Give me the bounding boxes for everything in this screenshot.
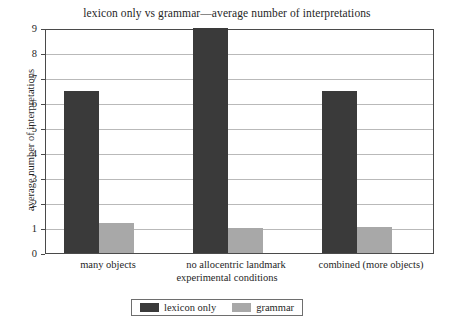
bar-many-objects-lexicon-only xyxy=(64,91,99,254)
y-tick-label: 1 xyxy=(9,224,37,234)
bar-no-allocentric-landmark-lexicon-only xyxy=(193,28,228,253)
y-tick-label: 7 xyxy=(9,74,37,84)
y-tick-label: 0 xyxy=(9,249,37,259)
legend-swatch-icon xyxy=(140,303,159,312)
legend-label: grammar xyxy=(256,302,294,313)
y-tick-label: 2 xyxy=(9,199,37,209)
x-axis-title: experimental conditions xyxy=(0,271,454,284)
bar-no-allocentric-landmark-grammar xyxy=(228,228,263,253)
y-tick-label: 5 xyxy=(9,124,37,134)
gridline xyxy=(46,154,433,155)
y-tick-label: 3 xyxy=(9,174,37,184)
y-tick-label: 4 xyxy=(9,149,37,159)
legend-entry-lexicon-only: lexicon only xyxy=(140,302,216,313)
gridline xyxy=(46,179,433,180)
bar-chart-figure: lexicon only vs grammar—average number o… xyxy=(0,0,454,326)
x-category-label-combined-more-objects: combined (more objects) xyxy=(296,258,446,271)
legend-swatch-icon xyxy=(232,303,251,312)
gridline xyxy=(46,79,433,80)
gridline xyxy=(46,104,433,105)
y-tick-mark xyxy=(41,254,45,255)
x-category-label-many-objects: many objects xyxy=(38,258,178,271)
bar-many-objects-grammar xyxy=(99,223,134,253)
bar-combined-more-objects-lexicon-only xyxy=(322,91,357,254)
gridline xyxy=(46,204,433,205)
chart-title: lexicon only vs grammar—average number o… xyxy=(0,6,454,20)
chart-legend: lexicon only grammar xyxy=(131,299,303,316)
y-axis-title: average number of interpretations xyxy=(25,35,37,245)
gridline xyxy=(46,129,433,130)
plot-area xyxy=(45,29,434,254)
y-tick-label: 6 xyxy=(9,99,37,109)
legend-entry-grammar: grammar xyxy=(232,302,294,313)
y-tick-label: 8 xyxy=(9,49,37,59)
bar-combined-more-objects-grammar xyxy=(357,227,392,253)
gridline xyxy=(46,54,433,55)
x-category-label-no-allocentric-landmark: no allocentric landmark xyxy=(166,258,306,271)
y-tick-label: 9 xyxy=(9,24,37,34)
legend-label: lexicon only xyxy=(164,302,216,313)
